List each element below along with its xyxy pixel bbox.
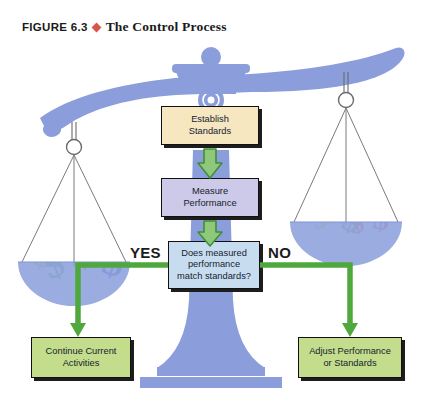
right-chain-3 (346, 108, 398, 222)
flow-box-continue-current-activities[interactable]: Continue Current Activities (31, 337, 131, 378)
adjust-line-2: or Standards (323, 358, 376, 368)
left-hanger-ring (67, 140, 82, 155)
svg-text:$: $ (101, 216, 132, 260)
measure-line-2: Performance (183, 198, 236, 208)
branch-label-no: NO (268, 244, 291, 261)
scale-beam-left-tip (43, 124, 61, 137)
figure-container: FIGURE 6.3The Control Process (0, 0, 422, 403)
svg-text:$: $ (351, 166, 383, 225)
scale-knob (201, 47, 221, 67)
svg-text:$: $ (26, 198, 68, 260)
decision-line-3: match standards? (177, 271, 251, 281)
right-hanger-ring (339, 93, 354, 108)
svg-text:$: $ (41, 192, 63, 234)
establish-line-2: Standards (189, 126, 231, 136)
adjust-line-1: Adjust Performance (309, 346, 391, 356)
flow-box-measure-performance[interactable]: Measure Performance (161, 178, 259, 217)
continue-line-2: Activities (63, 358, 100, 368)
left-chain-1 (22, 155, 74, 262)
scale-base-slab-upper (157, 367, 265, 376)
scale-base-slab (140, 377, 282, 388)
branch-label-yes: YES (130, 244, 161, 261)
flow-box-decision[interactable]: Does measured performance match standard… (168, 241, 260, 289)
flow-box-establish-standards[interactable]: Establish Standards (161, 106, 259, 145)
measure-line-1: Measure (192, 186, 228, 196)
right-chain-1 (294, 108, 346, 222)
left-chain-3 (74, 155, 126, 262)
svg-text:$: $ (84, 193, 114, 242)
continue-line-1: Continue Current (46, 346, 117, 356)
left-pan-bowl (18, 262, 130, 306)
right-pan-bowl (290, 222, 402, 266)
decision-line-1: Does measured (181, 248, 247, 258)
svg-text:$: $ (105, 206, 135, 245)
decision-line-2: performance (188, 259, 240, 269)
establish-line-1: Establish (191, 114, 229, 124)
flow-box-adjust-performance-or-standards[interactable]: Adjust Performance or Standards (298, 337, 402, 378)
scale-pivot-center (208, 97, 215, 104)
